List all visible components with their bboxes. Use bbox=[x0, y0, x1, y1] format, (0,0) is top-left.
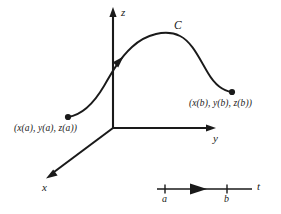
curve-start-point-dot bbox=[65, 114, 71, 120]
y-axis-label: y bbox=[213, 133, 218, 144]
t-axis-tick-label-b: b bbox=[224, 194, 229, 204]
x-axis-label: x bbox=[42, 182, 47, 193]
curve-end-point-label: (x(b), y(b), z(b)) bbox=[189, 99, 252, 109]
z-axis-label: z bbox=[121, 7, 125, 18]
curve-label-c: C bbox=[174, 20, 182, 32]
curve-start-point-label: (x(a), y(a), z(a)) bbox=[14, 124, 77, 134]
curve-end-point-dot bbox=[229, 89, 235, 95]
t-axis-label: t bbox=[257, 181, 260, 192]
t-axis-tick-label-a: a bbox=[162, 194, 167, 204]
